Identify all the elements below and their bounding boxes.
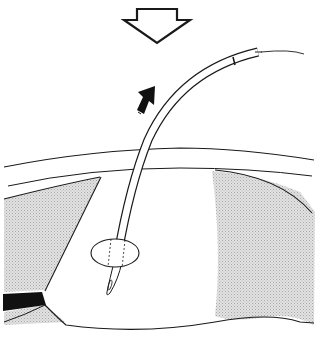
cuff bbox=[91, 239, 139, 268]
diagram-canvas bbox=[0, 0, 324, 343]
cavity bbox=[4, 170, 315, 329]
tissue-layer bbox=[4, 148, 314, 186]
up-right-arrow-icon bbox=[137, 86, 155, 114]
down-arrow-icon bbox=[124, 9, 190, 43]
